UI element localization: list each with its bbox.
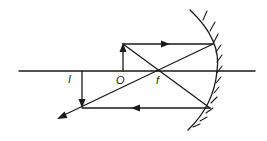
ray-incident-through-focus bbox=[123, 44, 210, 108]
ray-direction-right-icon bbox=[161, 41, 170, 48]
concave-mirror bbox=[188, 10, 218, 130]
ray-diagram: I O f bbox=[0, 0, 267, 141]
image-label: I bbox=[68, 73, 71, 85]
object-label: O bbox=[116, 74, 125, 86]
ray-direction-left-icon bbox=[131, 105, 140, 112]
focal-point-label: f bbox=[156, 74, 160, 86]
ray-end-arrowhead-icon bbox=[57, 112, 68, 120]
image-arrowhead-icon bbox=[79, 99, 86, 108]
